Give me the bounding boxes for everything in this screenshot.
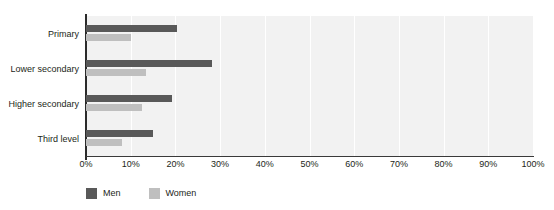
bar-group: Third level (86, 121, 533, 156)
legend-label: Men (103, 189, 121, 198)
bar-group: Primary (86, 16, 533, 51)
category-label: Higher secondary (8, 99, 79, 108)
category-label: Third level (37, 134, 79, 143)
bar-men-higher-secondary (86, 95, 172, 102)
x-axis-tick-labels: 0%10%20%30%40%50%60%70%80%90%100% (86, 160, 533, 174)
chart-container: PrimaryLower secondaryHigher secondaryTh… (0, 0, 554, 210)
bar-men-third-level (86, 130, 153, 137)
x-tick-label: 40% (256, 160, 274, 169)
bar-women-lower-secondary (86, 69, 146, 76)
x-axis-line (86, 156, 534, 157)
bar-group: Lower secondary (86, 51, 533, 86)
gridline (533, 16, 534, 156)
chart-legend: MenWomen (86, 188, 224, 199)
x-tick-label: 100% (521, 160, 544, 169)
x-tick-label: 20% (166, 160, 184, 169)
x-tick-label: 30% (211, 160, 229, 169)
x-tick-label: 80% (435, 160, 453, 169)
bar-women-higher-secondary (86, 104, 142, 111)
bar-women-third-level (86, 139, 122, 146)
legend-swatch-men (86, 188, 97, 199)
x-tick-label: 60% (345, 160, 363, 169)
legend-label: Women (166, 189, 197, 198)
legend-item-men[interactable]: Men (86, 188, 121, 199)
clipped-title-strip (0, 0, 554, 5)
x-tick-label: 90% (479, 160, 497, 169)
bar-rows: PrimaryLower secondaryHigher secondaryTh… (86, 16, 533, 156)
category-label: Primary (48, 29, 79, 38)
x-tick-label: 50% (300, 160, 318, 169)
legend-swatch-women (149, 188, 160, 199)
bar-men-primary (86, 25, 177, 32)
bar-men-lower-secondary (86, 60, 212, 67)
x-tick-label: 0% (79, 160, 92, 169)
category-label: Lower secondary (10, 64, 79, 73)
bar-women-primary (86, 34, 131, 41)
legend-item-women[interactable]: Women (149, 188, 197, 199)
x-tick-label: 10% (122, 160, 140, 169)
bar-group: Higher secondary (86, 86, 533, 121)
x-tick-label: 70% (390, 160, 408, 169)
